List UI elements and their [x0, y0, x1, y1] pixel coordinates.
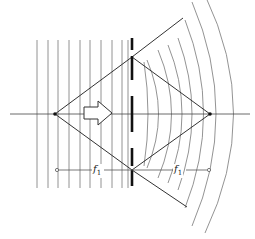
left-focus-dot — [53, 112, 57, 116]
left-focal-length-label: f1 — [92, 164, 102, 178]
lens-diagram — [0, 0, 255, 239]
right-focal-length-label: f1 — [173, 164, 183, 178]
curved-wavefronts — [144, 0, 234, 233]
right-focus-dot — [208, 112, 212, 116]
direction-arrow-icon — [84, 101, 112, 125]
